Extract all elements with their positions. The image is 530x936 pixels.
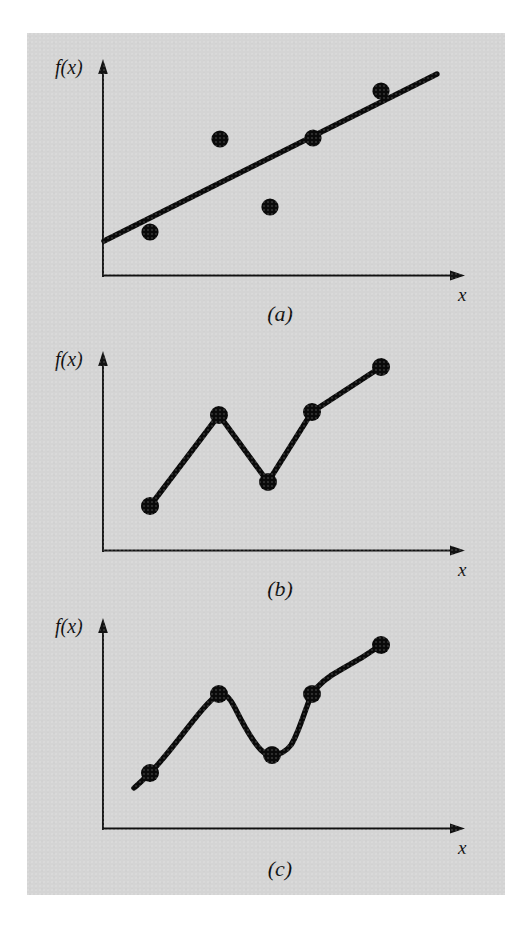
y-axis-a: [98, 59, 108, 277]
data-point: [141, 223, 158, 240]
data-point: [303, 403, 321, 421]
data-point: [210, 685, 228, 703]
y-axis-b: [98, 351, 108, 552]
data-point: [372, 82, 389, 99]
x-axis-label-b: x: [457, 559, 467, 580]
y-axis-label-a: f(x): [55, 56, 83, 79]
data-point: [261, 198, 278, 215]
x-axis-label-a: x: [457, 284, 467, 305]
panel-c-spline-interpolation: f(x) x (c): [27, 590, 505, 895]
x-axis-b: [103, 545, 465, 555]
panel-b-plot: f(x) x (b): [27, 320, 505, 605]
panel-c-plot: f(x) x (c): [27, 590, 505, 895]
data-point: [141, 497, 159, 515]
x-axis-c: [103, 823, 465, 833]
x-axis-a: [103, 270, 465, 280]
y-axis-label-c: f(x): [55, 615, 83, 638]
panel-a-regression: f(x) x (a): [27, 33, 505, 330]
panel-caption-c: (c): [268, 856, 292, 881]
data-point: [372, 636, 390, 654]
data-point: [372, 358, 390, 376]
x-axis-label-c: x: [457, 837, 467, 858]
data-point: [211, 130, 228, 147]
data-point: [263, 746, 281, 764]
data-point: [303, 685, 321, 703]
panel-a-plot: f(x) x (a): [27, 33, 505, 330]
data-point: [259, 473, 277, 491]
data-point: [304, 129, 321, 146]
panel-b-linear-interpolation: f(x) x (b): [27, 320, 505, 605]
y-axis-label-b: f(x): [55, 348, 83, 371]
y-axis-c: [98, 618, 108, 830]
figure-plate: f(x) x (a): [27, 33, 505, 895]
data-point: [141, 764, 159, 782]
data-point: [210, 406, 228, 424]
regression-line-a: [104, 74, 437, 241]
spline-curve-c: [134, 645, 381, 788]
figure-root: f(x) x (a): [0, 0, 530, 936]
